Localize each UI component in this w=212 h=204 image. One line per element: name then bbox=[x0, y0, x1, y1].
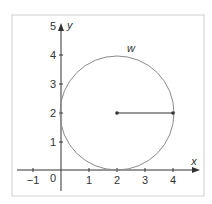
y-axis-arrow-icon bbox=[58, 23, 64, 31]
x-tick-label: −1 bbox=[27, 174, 40, 186]
x-axis-label: x bbox=[190, 155, 197, 167]
x-axis-arrow-icon bbox=[192, 167, 200, 173]
x-tick-label: 4 bbox=[170, 174, 176, 186]
coordinate-diagram: −1 0 1 2 3 4 1 2 3 4 5 x y w bbox=[0, 0, 212, 204]
circle-label: w bbox=[127, 42, 136, 54]
y-tick-label: 3 bbox=[50, 78, 56, 90]
y-tick-label: 4 bbox=[50, 49, 56, 61]
x-tick-label: 0 bbox=[50, 172, 56, 184]
y-tick-label: 5 bbox=[50, 20, 56, 32]
y-tick-label: 2 bbox=[50, 107, 56, 119]
x-tick-label: 3 bbox=[142, 174, 148, 186]
radius-endpoint bbox=[171, 111, 175, 115]
x-tick-label: 1 bbox=[86, 174, 92, 186]
y-axis-label: y bbox=[66, 19, 74, 31]
x-tick-label: 2 bbox=[114, 174, 120, 186]
center-point bbox=[115, 111, 119, 115]
y-tick-label: 1 bbox=[50, 136, 56, 148]
